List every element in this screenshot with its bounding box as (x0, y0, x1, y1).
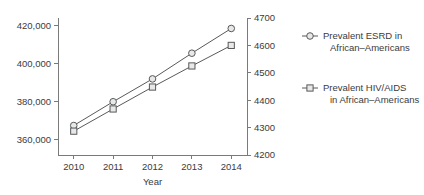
data-point-marker-circle (149, 76, 156, 83)
chart-series (70, 25, 234, 134)
chart-legend: Prevalent ESRD inAfrican–AmericansPreval… (302, 30, 419, 105)
x-axis-tick-label: 2010 (63, 161, 84, 172)
data-point-marker-square (189, 63, 195, 69)
data-point-marker-square (228, 42, 234, 48)
data-point-marker-circle (228, 25, 235, 32)
right-axis-tick-label: 4500 (254, 67, 275, 78)
x-axis-tick-label: 2014 (221, 161, 242, 172)
left-axis-tick-label: 360,000 (17, 134, 51, 145)
line-chart: 360,000380,000400,000420,000420043004400… (0, 0, 424, 195)
x-axis-tick-label: 2011 (103, 161, 123, 172)
data-point-marker-square (149, 84, 155, 90)
legend-marker-square (307, 85, 313, 91)
legend-label-line1-0: Prevalent ESRD in (323, 30, 402, 41)
right-axis-tick-label: 4200 (254, 149, 275, 160)
chart-figure: 360,000380,000400,000420,000420043004400… (0, 0, 424, 195)
data-point-marker-circle (189, 50, 196, 57)
x-axis-tick-label: 2012 (142, 161, 163, 172)
left-axis-tick-label: 400,000 (17, 58, 51, 69)
right-axis-tick-label: 4700 (254, 12, 275, 23)
chart-labels: 360,000380,000400,000420,000420043004400… (17, 12, 275, 187)
data-point-marker-square (71, 128, 77, 134)
x-axis-title: Year (143, 176, 162, 187)
data-point-marker-circle (110, 98, 117, 105)
legend-label-line1-1: Prevalent HIV/AIDS (323, 82, 406, 93)
legend-label-line2-0: African–Americans (330, 42, 410, 53)
legend-marker-circle (307, 33, 314, 40)
data-point-marker-square (110, 106, 116, 112)
left-axis-tick-label: 380,000 (17, 96, 51, 107)
right-axis-tick-label: 4300 (254, 122, 275, 133)
right-axis-tick-label: 4400 (254, 95, 275, 106)
x-axis-tick-label: 2013 (181, 161, 202, 172)
left-axis-tick-label: 420,000 (17, 20, 51, 31)
right-axis-tick-label: 4600 (254, 40, 275, 51)
legend-label-line2-1: in African–Americans (330, 94, 419, 105)
